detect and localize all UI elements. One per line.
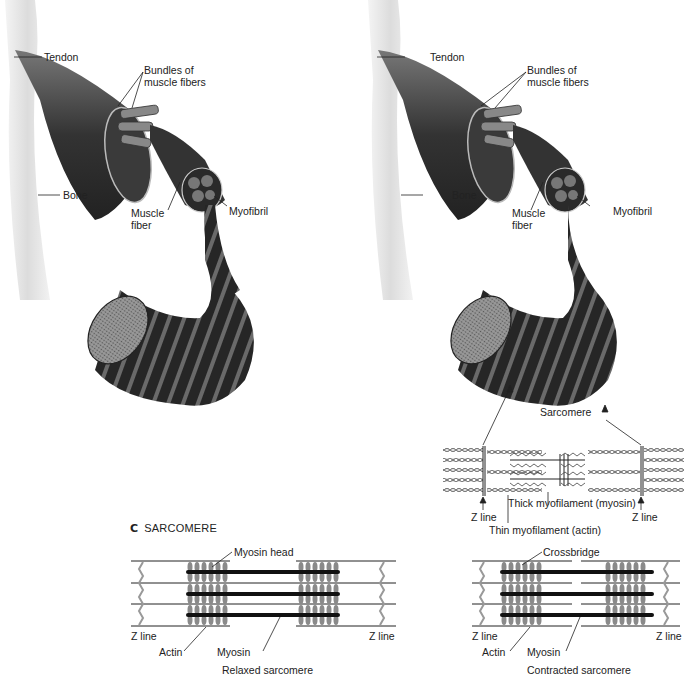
caption-relaxed-sarcomere: Relaxed sarcomere bbox=[222, 664, 313, 676]
label-z-line-relaxed-right: Z line bbox=[369, 630, 395, 642]
label-crossbridge: Crossbridge bbox=[543, 546, 600, 558]
label-z-line-relaxed-left: Z line bbox=[131, 630, 157, 642]
section-letter: C bbox=[130, 522, 138, 535]
label-bundles-a-1: Bundles of bbox=[144, 64, 194, 76]
label-bone-b: Bone bbox=[452, 189, 477, 201]
label-thick-myofilament: Thick myofilament (myosin) bbox=[508, 497, 636, 509]
bone-shape bbox=[5, 0, 50, 300]
label-bundles-b-1: Bundles of bbox=[527, 64, 577, 76]
section-c-heading: CSARCOMERE bbox=[130, 522, 217, 535]
label-tendon-b: Tendon bbox=[430, 51, 464, 63]
label-myosin-head: Myosin head bbox=[234, 546, 294, 558]
label-myofibril-a: Myofibril bbox=[229, 205, 268, 217]
label-myofibril-b: Myofibril bbox=[613, 205, 652, 217]
label-actin-contracted: Actin bbox=[482, 646, 505, 658]
label-muscle-fiber-b-2: fiber bbox=[512, 219, 532, 231]
relaxed-sarcomere-diagram bbox=[131, 552, 396, 651]
label-z-line-contracted-left: Z line bbox=[472, 630, 498, 642]
label-myosin-relaxed: Myosin bbox=[217, 646, 250, 658]
label-tendon-a: Tendon bbox=[44, 51, 78, 63]
label-z-line-b-right: Z line bbox=[632, 511, 658, 523]
caption-contracted-sarcomere: Contracted sarcomere bbox=[527, 664, 631, 676]
panel-b-illustration bbox=[368, 0, 684, 523]
label-muscle-fiber-a-2: fiber bbox=[131, 219, 151, 231]
label-bundles-a-2: muscle fibers bbox=[144, 76, 206, 88]
label-muscle-fiber-b-1: Muscle bbox=[512, 207, 545, 219]
muscle-structure-diagram bbox=[0, 0, 690, 684]
label-z-line-b-left: Z line bbox=[471, 511, 497, 523]
contracted-sarcomere-diagram bbox=[472, 552, 680, 651]
panel-a-illustration bbox=[5, 0, 254, 406]
label-bundles-b-2: muscle fibers bbox=[527, 76, 589, 88]
label-z-line-contracted-right: Z line bbox=[656, 630, 682, 642]
label-bone-a: Bone bbox=[63, 189, 88, 201]
label-sarcomere: Sarcomere bbox=[540, 406, 591, 418]
label-muscle-fiber-a-1: Muscle bbox=[131, 207, 164, 219]
label-thin-myofilament: Thin myofilament (actin) bbox=[489, 524, 601, 536]
label-actin-relaxed: Actin bbox=[159, 646, 182, 658]
label-myosin-contracted: Myosin bbox=[527, 646, 560, 658]
section-title: SARCOMERE bbox=[144, 522, 217, 534]
